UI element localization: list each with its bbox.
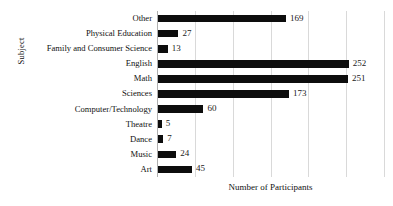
category-label: Family and Consumer Science [47, 41, 152, 56]
bar-row: Math251 [157, 71, 384, 86]
bar-value-label: 251 [352, 71, 366, 86]
bar-row: Music24 [157, 147, 384, 162]
bar-value-label: 169 [290, 11, 304, 26]
category-label: Art [141, 162, 152, 177]
bar [158, 45, 168, 53]
category-label: Math [134, 71, 152, 86]
bar [158, 30, 178, 38]
bar-row: Computer/Technology60 [157, 102, 384, 117]
bar-value-label: 5 [166, 116, 171, 131]
bar-row: Dance7 [157, 132, 384, 147]
category-label: Other [132, 11, 152, 26]
bar [158, 75, 348, 83]
category-label: Sciences [122, 86, 152, 101]
x-axis-title: Number of Participants [157, 182, 384, 192]
bar-value-label: 45 [196, 161, 205, 176]
bar-row: Physical Education27 [157, 26, 384, 41]
bar [158, 90, 289, 98]
bar-value-label: 24 [180, 146, 189, 161]
bar-chart: Subject Art45Music24Dance7Theatre5Comput… [0, 0, 393, 206]
plot-area: Art45Music24Dance7Theatre5Computer/Techn… [157, 11, 384, 177]
bar [158, 105, 203, 113]
category-label: Music [131, 147, 152, 162]
y-axis-title: Subject [14, 16, 28, 86]
category-label: Computer/Technology [75, 102, 152, 117]
bar [158, 60, 349, 68]
bar [158, 135, 163, 143]
category-label: Theatre [126, 117, 152, 132]
bar-row: Sciences173 [157, 86, 384, 101]
category-label: Physical Education [86, 26, 152, 41]
bar-value-label: 7 [167, 131, 172, 146]
bar-value-label: 27 [182, 26, 191, 41]
bar-row: Art45 [157, 162, 384, 177]
bar-row: Theatre5 [157, 117, 384, 132]
bar-row: Other169 [157, 11, 384, 26]
bar [158, 166, 192, 174]
bar-value-label: 252 [353, 56, 367, 71]
category-label: English [126, 56, 152, 71]
gridline [384, 11, 385, 177]
bar-value-label: 13 [172, 41, 181, 56]
bar [158, 15, 286, 23]
category-label: Dance [130, 132, 152, 147]
bar-value-label: 60 [207, 101, 216, 116]
bar-row: Family and Consumer Science13 [157, 41, 384, 56]
bar [158, 120, 162, 128]
bar-value-label: 173 [293, 86, 307, 101]
bar-row: English252 [157, 56, 384, 71]
bar [158, 151, 176, 159]
